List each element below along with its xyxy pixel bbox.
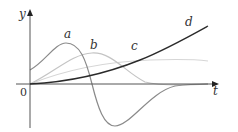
- curve-b: [30, 53, 208, 85]
- curve-c-label: c: [131, 39, 138, 53]
- origin-label: 0: [20, 86, 27, 99]
- t-axis-label: t: [213, 84, 218, 98]
- graph-figure: y t 0 a b c d: [0, 0, 238, 132]
- curve-d-label: d: [185, 15, 193, 29]
- curve-b-label: b: [90, 38, 98, 52]
- curve-a-label: a: [64, 27, 71, 41]
- y-axis-label: y: [18, 7, 26, 21]
- y-axis-arrow-icon: [27, 9, 33, 16]
